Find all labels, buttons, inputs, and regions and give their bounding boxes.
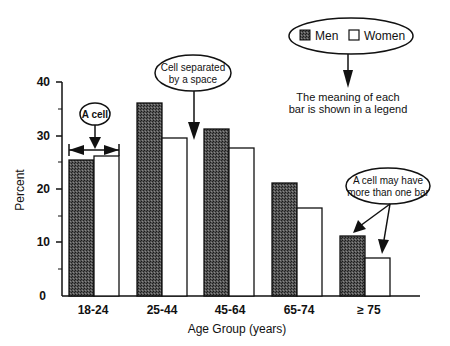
y-tick-10: 10 [37, 235, 51, 249]
bar-women-45-64 [229, 148, 254, 296]
x-tick-75-plus: ≥ 75 [357, 303, 381, 317]
bar-men-45-64 [204, 129, 229, 296]
y-axis: 40 30 20 10 0 Percent [13, 75, 62, 303]
legend-caption-1: The meaning of each [296, 91, 399, 103]
callout-a-cell: A cell [69, 103, 119, 156]
x-axis: 18-24 25-44 45-64 65-74 ≥ 75 Age Group (… [62, 296, 420, 336]
x-tick-65-74: 65-74 [284, 303, 315, 317]
x-axis-label: Age Group (years) [188, 322, 287, 336]
x-tick-25-44: 25-44 [147, 303, 178, 317]
bar-men-25-44 [137, 103, 162, 296]
y-tick-30: 30 [37, 129, 51, 143]
legend-caption-2: bar is shown in a legend [289, 103, 408, 115]
bar-women-75-plus [365, 258, 390, 296]
bar-men-75-plus [340, 236, 365, 296]
bar-men-65-74 [272, 183, 297, 296]
x-tick-18-24: 18-24 [78, 303, 109, 317]
legend-men-label: Men [315, 29, 338, 43]
bar-women-25-44 [162, 138, 187, 296]
y-axis-label: Percent [13, 169, 27, 211]
y-tick-40: 40 [37, 75, 51, 89]
svg-text:A cell: A cell [82, 109, 109, 120]
svg-text:by a space: by a space [169, 74, 218, 85]
svg-text:A cell may have: A cell may have [353, 175, 423, 186]
bars [69, 103, 390, 296]
bar-men-18-24 [69, 160, 94, 296]
svg-text:more than one bar: more than one bar [347, 187, 429, 198]
bar-women-18-24 [94, 156, 119, 296]
y-tick-20: 20 [37, 182, 51, 196]
bar-chart: 40 30 20 10 0 Percent 18-24 25-44 45-64 … [0, 0, 450, 346]
svg-text:Cell separated: Cell separated [161, 62, 225, 73]
legend-women-label: Women [364, 29, 405, 43]
bar-women-65-74 [297, 208, 322, 296]
x-tick-45-64: 45-64 [215, 303, 246, 317]
y-tick-0: 0 [39, 289, 46, 303]
legend-men-swatch [300, 30, 310, 40]
legend-women-swatch [349, 30, 359, 40]
legend: Men Women The meaning of each bar is sho… [289, 18, 413, 115]
callout-cell-separated: Cell separated by a space [155, 55, 231, 140]
